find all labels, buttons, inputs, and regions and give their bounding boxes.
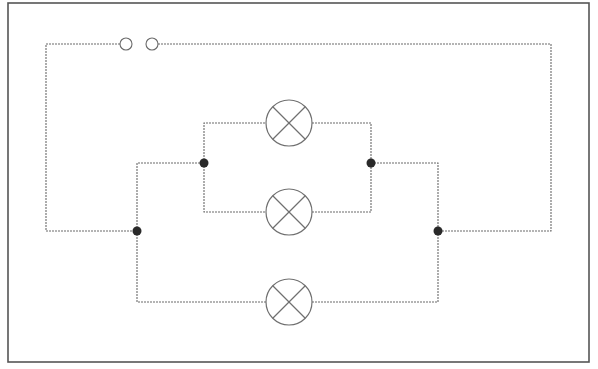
junction-dot [200,159,209,168]
wire [137,163,204,231]
wires [46,44,551,302]
wire [312,123,371,163]
lamp-icon [266,100,312,146]
junction-dot [133,227,142,236]
wire [204,123,266,163]
open-switch [120,38,158,50]
wire [312,231,438,302]
circuit-diagram [0,0,598,369]
wire [158,44,551,231]
lamp-icon [266,279,312,325]
lamps [266,100,312,325]
junction-dot [367,159,376,168]
wire [204,163,266,212]
junction-dot [434,227,443,236]
switch-terminal [120,38,132,50]
wire [371,163,438,231]
lamp-icon [266,189,312,235]
wire [137,231,266,302]
switch-terminal [146,38,158,50]
wire [46,44,137,231]
wire [312,163,371,212]
